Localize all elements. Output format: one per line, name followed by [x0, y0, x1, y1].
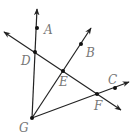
label-E: E: [58, 75, 68, 89]
point-B: [79, 42, 83, 46]
point-D: [33, 50, 37, 54]
point-F: [95, 92, 99, 96]
label-C: C: [108, 73, 117, 87]
ray-GB: [32, 28, 91, 118]
point-A: [35, 26, 39, 30]
point-E: [61, 69, 65, 73]
label-A: A: [43, 23, 53, 37]
ray-GA: [32, 9, 37, 118]
label-F: F: [93, 99, 103, 113]
label-B: B: [85, 46, 95, 60]
point-G: [30, 116, 34, 120]
label-D: D: [20, 54, 31, 68]
geometry-diagram: A B C D E F G: [0, 0, 136, 139]
label-G: G: [19, 121, 29, 135]
